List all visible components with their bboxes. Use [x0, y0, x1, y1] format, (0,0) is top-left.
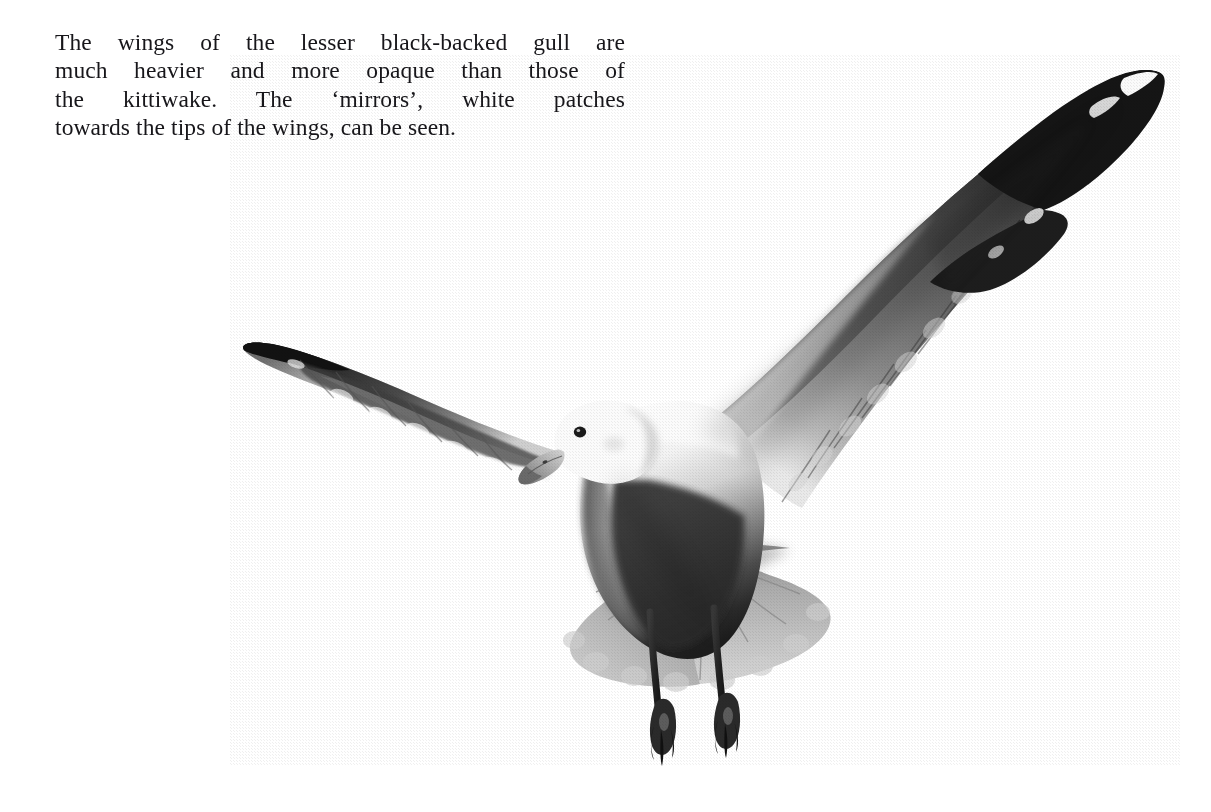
- caption-line-3: the kittiwake. The ‘mirrors’, white patc…: [55, 85, 625, 113]
- left-wing: [243, 342, 560, 482]
- right-wing: [700, 70, 1165, 508]
- caption-line-1: The wings of the lesser black-backed gul…: [55, 28, 625, 56]
- caption-line-4: towards the tips of the wings, can be se…: [55, 113, 625, 141]
- tail-fan: [563, 541, 831, 692]
- figure-caption: The wings of the lesser black-backed gul…: [55, 28, 625, 142]
- wing-mirrors-left: [286, 357, 306, 370]
- gull-body: [580, 401, 764, 659]
- eye: [574, 427, 586, 438]
- legs-and-feet: [650, 608, 740, 766]
- gull-head: [519, 401, 659, 485]
- book-page: The wings of the lesser black-backed gul…: [0, 0, 1211, 812]
- halftone-grain-overlay: [230, 55, 1180, 765]
- bill: [519, 450, 565, 485]
- wing-mirrors-right: [986, 72, 1158, 261]
- caption-line-2: much heavier and more opaque than those …: [55, 56, 625, 84]
